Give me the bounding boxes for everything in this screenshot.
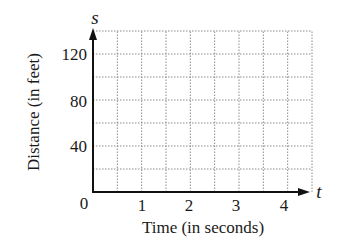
x-axis-title: Time (in seconds) xyxy=(142,218,264,237)
x-tick-label: 3 xyxy=(232,196,241,215)
y-tick-label: 80 xyxy=(70,92,87,111)
y-tick-label: 40 xyxy=(70,137,87,156)
y-axis-title: Distance (in feet) xyxy=(24,53,43,171)
grid xyxy=(93,31,312,192)
x-axis-arrow-icon xyxy=(298,188,310,196)
y-axis-variable: s xyxy=(91,7,98,28)
y-axis-arrow-icon xyxy=(89,28,97,40)
y-tick-label: 120 xyxy=(62,45,88,64)
x-axis-variable: t xyxy=(316,181,322,202)
distance-time-chart: s t 0 120 80 40 1 2 3 4 Time (in seconds… xyxy=(0,0,342,252)
x-tick-label: 2 xyxy=(185,196,194,215)
x-tick-label: 1 xyxy=(138,196,147,215)
origin-label: 0 xyxy=(80,194,89,213)
x-tick-label: 4 xyxy=(280,196,289,215)
